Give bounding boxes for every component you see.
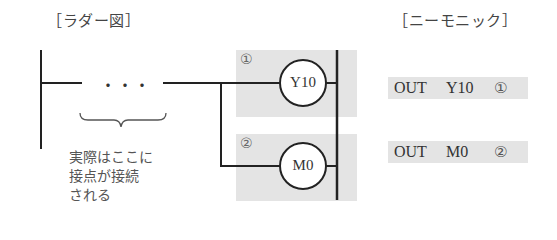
mnemonic-marker: ② [494, 141, 507, 163]
mnemonic-line-2: OUT M0 ② [388, 141, 528, 163]
mnemonic-instruction: OUT [394, 77, 446, 99]
mnemonic-device: M0 [446, 141, 494, 163]
note-line-2: 接点が接続 [69, 167, 153, 186]
rung-2-marker: ② [240, 135, 253, 151]
mnemonic-line-1: OUT Y10 ① [388, 77, 528, 99]
contact-placeholder: ・・・ [100, 72, 151, 96]
note-line-1: 実際はここに [69, 148, 153, 167]
coil-y10-label: Y10 [280, 74, 326, 91]
mnemonic-instruction: OUT [394, 141, 446, 163]
mnemonic-device: Y10 [446, 77, 494, 99]
note-line-3: される [69, 186, 153, 205]
contact-note: 実際はここに 接点が接続 される [69, 148, 153, 205]
mnemonic-marker: ① [494, 77, 507, 99]
coil-m0-label: M0 [280, 157, 326, 174]
brace-icon [80, 113, 166, 127]
rung-1-marker: ① [240, 51, 253, 67]
